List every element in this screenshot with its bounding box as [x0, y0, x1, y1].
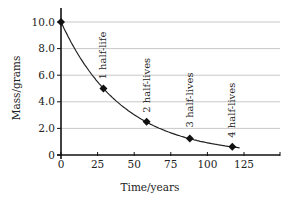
y-tick-label: 8.0: [38, 42, 55, 54]
diamond-marker: [228, 143, 236, 151]
axes: [57, 8, 280, 159]
y-axis-ticks: 02.04.06.08.010.0: [32, 16, 61, 161]
y-tick-label: 6.0: [38, 69, 55, 81]
half-life-label: 4 half-lives: [226, 83, 237, 138]
x-tick-label: 0: [58, 158, 65, 170]
half-life-annotations: 1 half-life2 half-lives3 half-lives4 hal…: [97, 32, 237, 138]
half-life-chart: 0255075100125 02.04.06.08.010.0 1 half-l…: [0, 0, 300, 205]
diamond-marker: [186, 134, 194, 142]
diamond-marker: [57, 18, 65, 26]
y-tick-label: 4.0: [38, 95, 55, 107]
half-life-label: 1 half-life: [97, 32, 108, 80]
x-axis-title: Time/years: [121, 181, 180, 193]
x-tick-label: 100: [197, 158, 217, 170]
x-tick-label: 75: [164, 158, 177, 170]
half-life-label: 3 half-lives: [184, 72, 195, 127]
y-tick-label: 0: [48, 149, 55, 161]
gridlines: [61, 22, 280, 128]
x-tick-label: 50: [128, 158, 141, 170]
diamond-marker: [143, 118, 151, 126]
x-tick-label: 25: [91, 158, 104, 170]
y-tick-label: 2.0: [38, 122, 55, 134]
half-life-label: 2 half-lives: [141, 58, 152, 113]
x-tick-label: 125: [234, 158, 254, 170]
y-tick-label: 10.0: [32, 16, 55, 28]
y-axis-title: Mass/grams: [10, 56, 22, 121]
